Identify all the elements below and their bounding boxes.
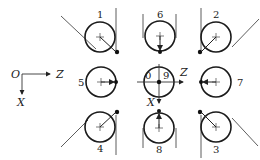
center-x-label: X <box>146 96 156 109</box>
coordinate-axes: O Z X <box>11 68 64 109</box>
position-3-label: 3 <box>213 144 219 155</box>
position-1-label: 1 <box>97 9 103 20</box>
position-9-label: 9 <box>163 70 169 81</box>
position-6-label: 6 <box>157 9 163 20</box>
x-axis-label: X <box>16 96 26 109</box>
position-6: 6 <box>143 9 176 54</box>
position-4: 4 <box>61 110 119 155</box>
position-4-label: 4 <box>97 143 103 154</box>
position-1: 1 <box>61 8 119 54</box>
position-7-label: 7 <box>237 77 243 88</box>
position-5: 5 <box>78 67 118 97</box>
position-8-label: 8 <box>156 144 162 155</box>
position-5-label: 5 <box>78 77 84 88</box>
position-0-label: 0 <box>145 70 151 81</box>
z-axis-label: Z <box>55 68 64 81</box>
tool-orientation-diagram: O Z X 1 6 2 <box>0 0 260 160</box>
position-8: 8 <box>143 109 176 155</box>
position-3: 3 <box>198 110 258 158</box>
position-2: 2 <box>198 8 259 54</box>
center-z-label: Z <box>179 66 188 79</box>
position-0-9: 0 9 Z X <box>137 64 188 109</box>
position-7: 7 <box>199 67 243 97</box>
position-2-label: 2 <box>213 9 219 20</box>
origin-label: O <box>11 68 20 81</box>
